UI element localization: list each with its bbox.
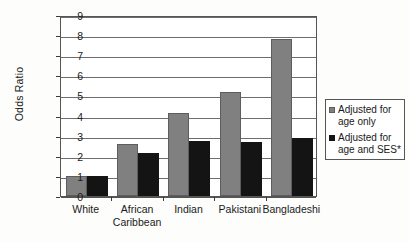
bar-group xyxy=(61,17,112,196)
y-tick-label-3: 3 xyxy=(61,132,83,142)
gridline-0 xyxy=(61,197,316,198)
y-tick-label-2: 2 xyxy=(61,152,83,162)
bar xyxy=(168,113,189,196)
grey-square-icon xyxy=(329,107,335,113)
y-tick-mark-2 xyxy=(56,157,60,158)
bar-group xyxy=(164,17,215,196)
y-tick-mark-4 xyxy=(56,117,60,118)
y-tick-label-1: 1 xyxy=(61,172,83,182)
bar xyxy=(87,176,108,196)
bar xyxy=(189,141,210,196)
legend-entry: Adjusted for age only xyxy=(329,104,401,127)
y-tick-label-5: 5 xyxy=(61,91,83,101)
chart-legend: Adjusted for age onlyAdjusted for age an… xyxy=(325,99,405,160)
legend-entry: Adjusted for age and SES* xyxy=(329,132,401,155)
bar-group xyxy=(215,17,266,196)
legend-label: Adjusted for age only xyxy=(338,104,401,127)
y-tick-mark-9 xyxy=(56,16,60,17)
bar xyxy=(241,142,262,196)
bar-group xyxy=(112,17,163,196)
x-tick-mark xyxy=(266,197,267,201)
y-tick-label-9: 9 xyxy=(61,11,83,21)
bar xyxy=(271,39,292,196)
y-tick-mark-0 xyxy=(56,197,60,198)
y-tick-label-4: 4 xyxy=(61,112,83,122)
bar-group xyxy=(267,17,318,196)
y-tick-mark-6 xyxy=(56,76,60,77)
y-tick-mark-3 xyxy=(56,137,60,138)
black-square-icon xyxy=(329,135,335,141)
y-tick-label-8: 8 xyxy=(61,31,83,41)
y-tick-mark-5 xyxy=(56,96,60,97)
y-tick-mark-1 xyxy=(56,177,60,178)
x-axis-label: Bangladeshi xyxy=(260,203,323,216)
y-tick-label-7: 7 xyxy=(61,51,83,61)
y-axis-title: Odds Ratio xyxy=(13,44,25,144)
plot-area xyxy=(60,16,317,197)
bar-series-container xyxy=(61,17,316,196)
bar xyxy=(117,144,138,196)
y-tick-mark-8 xyxy=(56,36,60,37)
y-tick-label-0: 0 xyxy=(61,192,83,202)
bar xyxy=(138,153,159,196)
x-tick-mark xyxy=(214,197,215,201)
x-tick-mark xyxy=(163,197,164,201)
odds-ratio-bar-chart: Odds Ratio 9876543210 WhiteAfrican Carib… xyxy=(0,0,409,242)
x-tick-mark xyxy=(111,197,112,201)
y-tick-label-6: 6 xyxy=(61,71,83,81)
bar xyxy=(292,138,313,196)
y-tick-mark-7 xyxy=(56,56,60,57)
legend-label: Adjusted for age and SES* xyxy=(338,132,401,155)
bar xyxy=(220,92,241,196)
